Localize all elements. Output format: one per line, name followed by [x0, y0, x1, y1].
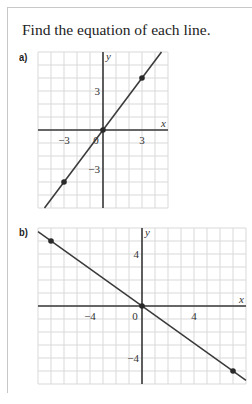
x-tick-label: 4 [191, 310, 197, 322]
x-tick-label: −4 [84, 310, 96, 322]
y-axis-label: y [144, 226, 150, 238]
y-tick-label: −4 [127, 352, 139, 364]
data-point [48, 238, 54, 244]
x-tick-label: 0 [132, 310, 138, 322]
graph-b: xy−4044−4 [0, 0, 252, 404]
y-tick-label: 4 [134, 248, 140, 260]
x-axis-label: x [238, 293, 244, 305]
data-point [139, 303, 145, 309]
data-point [230, 368, 236, 374]
